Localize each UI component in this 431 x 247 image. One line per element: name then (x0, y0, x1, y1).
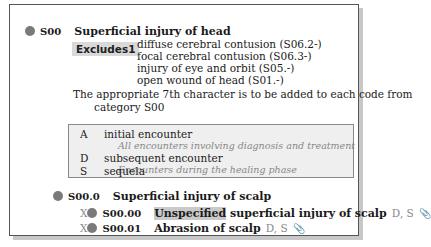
char-desc: All encounters involving diagnosis and t… (118, 140, 355, 151)
category-header: S00 Superficial injury of head (25, 20, 231, 39)
code-title: Abrasion of scalp (154, 222, 260, 235)
code-flags: D, S (392, 207, 414, 219)
excludes-item: focal cerebral contusion (S06.3-) (137, 50, 322, 62)
subcategory-code: S00.0 (68, 191, 100, 202)
paperclip-icon[interactable]: 📎 (419, 208, 431, 219)
char-label: sequela (104, 165, 145, 177)
char-label: subsequent encounter (104, 152, 223, 164)
bullet-icon (25, 26, 35, 36)
char-label: initial encounter (104, 128, 192, 140)
placeholder-x: X (80, 222, 87, 234)
bullet-icon (87, 223, 97, 233)
category-code: S00 (40, 26, 61, 37)
bullet-icon (53, 191, 63, 201)
excludes-list: diffuse cerebral contusion (S06.2-) foca… (137, 38, 322, 86)
char-letter: A (80, 128, 88, 140)
code-flags: D, S (266, 222, 288, 234)
excludes-badge: Excludes1 (72, 38, 139, 57)
char-letter: S (80, 165, 87, 177)
char-letter: D (80, 152, 88, 164)
seventh-character-note-cont: category S00 (94, 101, 164, 113)
excludes-item: diffuse cerebral contusion (S06.2-) (137, 38, 322, 50)
code-row[interactable]: X S00.01 Abrasion of scalp D, S 📎 (80, 217, 305, 236)
category-title: Superficial injury of head (74, 25, 230, 38)
excludes-item: injury of eye and orbit (S05.-) (137, 62, 322, 74)
paperclip-icon[interactable]: 📎 (293, 223, 305, 234)
seventh-character-note: The appropriate 7th character is to be a… (73, 88, 413, 100)
code-value: S00.01 (103, 223, 142, 234)
excludes-item: open wound of head (S01.-) (137, 74, 322, 86)
